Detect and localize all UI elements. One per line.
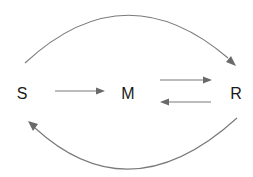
arrowhead-icon [203, 77, 212, 84]
arrowhead-icon [96, 88, 105, 95]
edge-s-to-m [55, 88, 105, 95]
arrowhead-icon [160, 99, 169, 106]
edge-r-to-s-arc [28, 118, 237, 169]
node-m-label: M [121, 86, 134, 102]
edge-m-to-r [160, 77, 212, 84]
edge-s-to-r-arc [25, 15, 236, 66]
edge-r-to-m [160, 99, 211, 106]
node-s-label: S [17, 86, 28, 102]
node-r-label: R [230, 86, 242, 102]
